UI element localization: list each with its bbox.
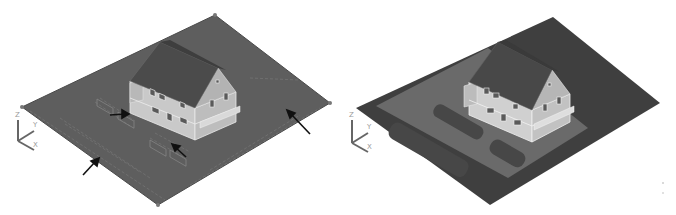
right-scene: Z Y X xyxy=(338,0,676,215)
corner-grip xyxy=(20,105,24,109)
house-side-block xyxy=(464,82,477,107)
left-scene: Z Y X xyxy=(0,0,338,215)
corner-grip xyxy=(156,203,160,207)
viewport-right-shaded[interactable]: Z Y X xyxy=(338,0,676,215)
viewport-left-wireframe[interactable]: Z Y X xyxy=(0,0,338,215)
axis-label-z: Z xyxy=(349,111,354,119)
ucs-axis-icon: Z Y X xyxy=(15,111,38,150)
ucs-axis-icon: Z Y X xyxy=(349,111,372,152)
axis-label-x: X xyxy=(367,143,372,151)
axis-label-y: Y xyxy=(32,121,38,129)
axis-label-y: Y xyxy=(366,123,372,131)
speck xyxy=(662,182,664,184)
corner-grip xyxy=(328,101,332,105)
figure: Z Y X xyxy=(0,0,676,215)
axis-label-z: Z xyxy=(15,111,20,119)
speck xyxy=(662,192,664,194)
axis-label-x: X xyxy=(33,141,38,149)
corner-grip xyxy=(213,13,217,17)
arrow-icon-edge-left xyxy=(83,158,99,175)
